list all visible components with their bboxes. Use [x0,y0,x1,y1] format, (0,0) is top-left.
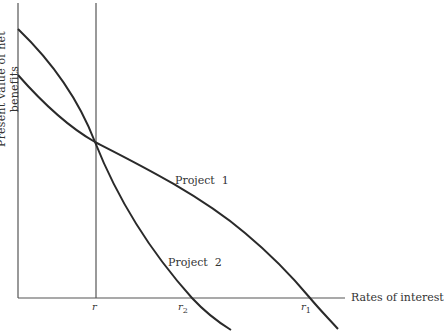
tick-r1-subscript: 1 [306,306,311,315]
tick-r2-subscript: 2 [183,306,188,315]
project-1-curve [18,75,338,329]
y-axis-label: Present value of net benefits [0,7,21,171]
tick-r: r [92,302,97,312]
tick-r-text: r [92,301,97,312]
tick-r1: r1 [301,302,311,315]
x-axis-label: Rates of interest [351,292,444,303]
tick-r2: r2 [178,302,188,315]
project-1-label: Project 1 [175,175,229,186]
project-2-label: Project 2 [168,257,222,268]
